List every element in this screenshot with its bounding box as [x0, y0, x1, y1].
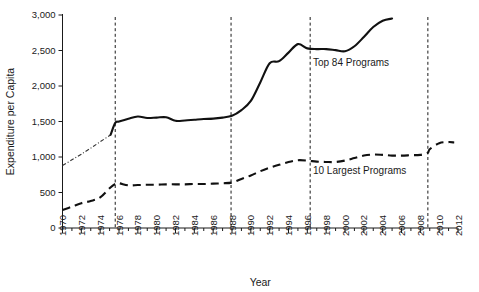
series-line: [111, 19, 393, 135]
x-axis-tick-label: 2012: [453, 215, 464, 236]
x-axis-tick-label: 2008: [415, 215, 426, 236]
y-axis-tick-label: 2,000: [32, 80, 56, 91]
x-axis-tick-label: 1984: [189, 215, 200, 236]
x-axis-tick-label: 1986: [208, 215, 219, 236]
data-series: [63, 19, 455, 210]
x-axis-tick-label: 1998: [321, 215, 332, 236]
y-axis-tick-label: 1,000: [32, 151, 56, 162]
x-axis-tick-label: 1990: [245, 215, 256, 236]
y-axis-tick-label: 1,500: [32, 116, 56, 127]
y-axis-title: Expenditure per Capita: [4, 68, 16, 176]
x-axis-tick-label: 1994: [283, 215, 294, 236]
series-annotation-label: Top 84 Programs: [313, 57, 389, 68]
x-axis: 1970197219741976197819801982198419861988…: [57, 215, 464, 236]
x-axis-tick-label: 1992: [264, 215, 275, 236]
y-axis-tick-label: 2,500: [32, 45, 56, 56]
expenditure-per-capita-line-chart: 05001,0001,5002,0002,5003,000 1970197219…: [0, 0, 479, 292]
x-axis-tick-label: 2004: [377, 215, 388, 236]
x-axis-tick-label: 1988: [227, 215, 238, 236]
x-axis-title: Year: [250, 276, 272, 288]
x-axis-tick-label: 1978: [132, 215, 143, 236]
axis-titles: Expenditure per CapitaYear: [4, 68, 271, 288]
x-axis-tick-label: 1980: [151, 215, 162, 236]
x-axis-tick-label: 1996: [302, 215, 313, 236]
y-axis-tick-label: 500: [40, 187, 56, 198]
chart-container: 05001,0001,5002,0002,5003,000 1970197219…: [0, 0, 479, 292]
vertical-reference-lines: [115, 17, 428, 228]
x-axis-tick-label: 2000: [340, 215, 351, 236]
x-axis-tick-label: 1972: [76, 215, 87, 236]
series-annotations: Top 84 Programs10 Largest Programs: [313, 57, 406, 176]
y-axis-tick-label: 3,000: [32, 9, 56, 20]
x-axis-tick-label: 1970: [57, 215, 68, 236]
x-axis-tick-label: 1974: [95, 215, 106, 236]
x-axis-tick-label: 1982: [170, 215, 181, 236]
series-annotation-label: 10 Largest Programs: [313, 165, 406, 176]
y-axis: 05001,0001,5002,0002,5003,000: [32, 9, 63, 233]
x-axis-tick-label: 2006: [396, 215, 407, 236]
x-axis-tick-label: 2010: [434, 215, 445, 236]
x-axis-tick-label: 2002: [358, 215, 369, 236]
series-line: [63, 135, 111, 166]
y-axis-tick-label: 0: [50, 222, 55, 233]
